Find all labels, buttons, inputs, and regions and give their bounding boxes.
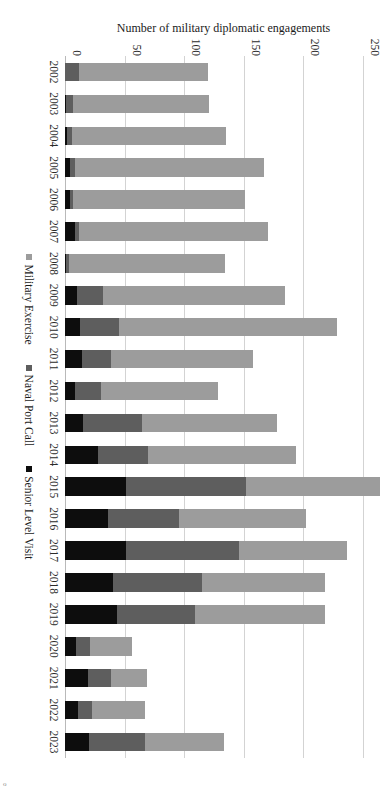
bar-stack[interactable] xyxy=(65,701,145,720)
bar-segment[interactable] xyxy=(119,318,337,337)
bar-segment[interactable] xyxy=(89,733,145,752)
bar-segment[interactable] xyxy=(77,286,103,305)
bar-segment[interactable] xyxy=(246,477,380,496)
bar-segment[interactable] xyxy=(126,541,239,560)
bar-stack[interactable] xyxy=(65,637,132,656)
bar-segment[interactable] xyxy=(202,573,325,592)
bar-segment[interactable] xyxy=(65,127,67,146)
bar-segment[interactable] xyxy=(80,318,118,337)
bar-stack[interactable] xyxy=(65,158,264,177)
legend-item[interactable]: Senior Level Visit xyxy=(23,466,35,559)
bar-segment[interactable] xyxy=(90,637,132,656)
bar-segment[interactable] xyxy=(98,446,148,465)
bar-segment[interactable] xyxy=(65,318,80,337)
bar-segment[interactable] xyxy=(111,669,147,688)
bar-stack[interactable] xyxy=(65,382,218,401)
bar-segment[interactable] xyxy=(82,350,112,369)
bar-segment[interactable] xyxy=(142,414,277,433)
bar-stack[interactable] xyxy=(65,95,209,114)
bar-segment[interactable] xyxy=(145,733,224,752)
bar-stack[interactable] xyxy=(65,509,306,528)
legend-label: Senior Level Visit xyxy=(23,476,35,559)
category-tick-label: 2003 xyxy=(39,88,61,120)
bar-segment[interactable] xyxy=(65,477,126,496)
bar-segment[interactable] xyxy=(88,669,112,688)
bar-segment[interactable] xyxy=(108,509,180,528)
bar-segment[interactable] xyxy=(70,190,74,209)
bar-segment[interactable] xyxy=(65,254,66,273)
bar-segment[interactable] xyxy=(73,190,245,209)
bar-segment[interactable] xyxy=(65,669,88,688)
bar-segment[interactable] xyxy=(65,446,98,465)
bar-segment[interactable] xyxy=(65,541,126,560)
bar-segment[interactable] xyxy=(65,158,70,177)
bar-segment[interactable] xyxy=(65,637,76,656)
bar-segment[interactable] xyxy=(65,509,108,528)
bar-segment[interactable] xyxy=(65,95,66,114)
bar-segment[interactable] xyxy=(117,605,194,624)
bar-stack[interactable] xyxy=(65,541,347,560)
legend-item[interactable]: Naval Port Call xyxy=(23,365,35,447)
bar-segment[interactable] xyxy=(148,446,296,465)
bar-segment[interactable] xyxy=(75,158,265,177)
bar-segment[interactable] xyxy=(66,254,68,273)
bar-segment[interactable] xyxy=(65,573,113,592)
bar-stack[interactable] xyxy=(65,446,296,465)
bar-segment[interactable] xyxy=(113,573,202,592)
bar-segment[interactable] xyxy=(66,95,73,114)
bar-stack[interactable] xyxy=(65,669,147,688)
category-tick-label: 2010 xyxy=(39,311,61,343)
bar-stack[interactable] xyxy=(65,286,286,305)
bar-segment[interactable] xyxy=(67,127,72,146)
legend-item[interactable]: Military Exercise xyxy=(23,254,35,344)
corner-mark: o xyxy=(3,780,7,788)
bar-segment[interactable] xyxy=(75,382,101,401)
bar-segment[interactable] xyxy=(92,701,144,720)
bar-segment[interactable] xyxy=(65,733,89,752)
bar-slot xyxy=(65,56,363,88)
bar-segment[interactable] xyxy=(65,63,79,82)
bar-segment[interactable] xyxy=(195,605,325,624)
bar-stack[interactable] xyxy=(65,414,277,433)
bar-stack[interactable] xyxy=(65,477,380,496)
bar-segment[interactable] xyxy=(73,95,209,114)
bar-stack[interactable] xyxy=(65,733,224,752)
bar-segment[interactable] xyxy=(101,382,218,401)
bar-segment[interactable] xyxy=(76,637,90,656)
bar-segment[interactable] xyxy=(126,477,246,496)
bar-segment[interactable] xyxy=(69,254,225,273)
bar-stack[interactable] xyxy=(65,318,337,337)
bar-stack[interactable] xyxy=(65,605,325,624)
bar-stack[interactable] xyxy=(65,127,226,146)
bar-stack[interactable] xyxy=(65,63,208,82)
bar-segment[interactable] xyxy=(65,222,75,241)
bar-segment[interactable] xyxy=(78,701,92,720)
legend-swatch-icon xyxy=(26,466,32,472)
bar-segment[interactable] xyxy=(72,127,226,146)
bar-slot xyxy=(65,567,363,599)
bar-segment[interactable] xyxy=(83,414,143,433)
bar-stack[interactable] xyxy=(65,350,253,369)
bar-segment[interactable] xyxy=(65,414,83,433)
bar-segment[interactable] xyxy=(65,190,70,209)
bar-segment[interactable] xyxy=(103,286,285,305)
bar-stack[interactable] xyxy=(65,573,325,592)
bar-segment[interactable] xyxy=(65,382,75,401)
bar-segment[interactable] xyxy=(239,541,347,560)
bar-segment[interactable] xyxy=(65,701,78,720)
bar-segment[interactable] xyxy=(65,605,117,624)
bar-segment[interactable] xyxy=(75,222,80,241)
bar-segment[interactable] xyxy=(65,286,77,305)
bar-segment[interactable] xyxy=(65,350,82,369)
bar-stack[interactable] xyxy=(65,190,245,209)
bar-segment[interactable] xyxy=(70,158,75,177)
bar-segment[interactable] xyxy=(179,509,305,528)
bar-segment[interactable] xyxy=(79,222,267,241)
bar-stack[interactable] xyxy=(65,254,225,273)
bar-segment[interactable] xyxy=(111,350,253,369)
bar-stack[interactable] xyxy=(65,222,268,241)
bar-segment[interactable] xyxy=(79,63,208,82)
bar-slot xyxy=(65,120,363,152)
